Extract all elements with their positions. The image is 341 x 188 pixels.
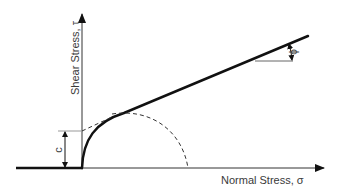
mohr-coulomb-diagram: c ϕ Shear Stress, τ Normal Stress, σ (0, 0, 341, 188)
x-axis-label: Normal Stress, σ (221, 174, 304, 186)
mohr-circle-dashed (112, 113, 188, 168)
y-axis-label: Shear Stress, τ (69, 20, 81, 95)
cohesion-label: c (52, 147, 64, 153)
failure-envelope (82, 36, 308, 168)
friction-angle-label: ϕ (288, 49, 299, 55)
